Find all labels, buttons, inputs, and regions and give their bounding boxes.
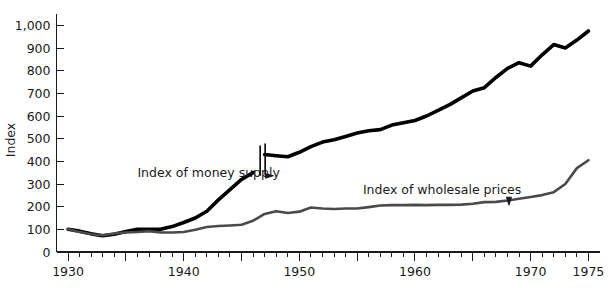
y-tick-label: 1,000 <box>15 18 51 33</box>
x-tick-label: 1950 <box>283 264 315 279</box>
x-tick-label: 1940 <box>168 264 200 279</box>
y-tick-label: 500 <box>27 131 51 146</box>
x-tick-label: 1975 <box>573 264 605 279</box>
x-tick-label: 1970 <box>515 264 547 279</box>
y-tick-label: 700 <box>27 86 51 101</box>
y-tick-label: 300 <box>27 177 51 192</box>
data-series-group <box>68 31 588 236</box>
y-tick-label: 900 <box>27 41 51 56</box>
annotation-pointer-icon <box>506 197 511 205</box>
series-line-0-post-break <box>265 31 589 157</box>
annotation-wholesale-prices: Index of wholesale prices <box>363 182 521 197</box>
annotation-money-supply: Index of money supply <box>137 165 280 180</box>
y-tick-label: 100 <box>27 222 51 237</box>
y-axis-title: Index <box>3 123 18 157</box>
y-tick-label: 800 <box>27 63 51 78</box>
y-tick-label: 200 <box>27 199 51 214</box>
x-axis-ticks: 193019401950196019701975 <box>52 252 604 279</box>
x-tick-label: 1930 <box>52 264 84 279</box>
y-tick-label: 400 <box>27 154 51 169</box>
chart-container: 01002003004005006007008009001,000 193019… <box>0 0 611 288</box>
y-tick-label: 600 <box>27 109 51 124</box>
series-annotations: Index of money supplyIndex of wholesale … <box>137 165 521 205</box>
y-tick-label: 0 <box>43 245 51 260</box>
x-tick-label: 1960 <box>399 264 431 279</box>
line-chart: 01002003004005006007008009001,000 193019… <box>0 0 611 288</box>
